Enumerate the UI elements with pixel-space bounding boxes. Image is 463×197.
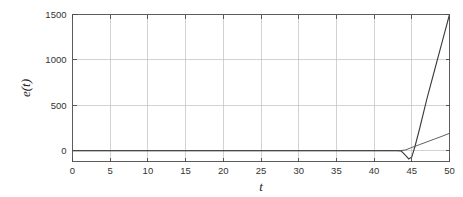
x-tick-label: 5 [108, 165, 113, 176]
y-tick-label: 0 [61, 145, 66, 156]
line-chart: 05101520253035404550 050010001500 t e(t) [0, 0, 463, 197]
y-axis-title: e(t) [18, 79, 33, 97]
y-tick-label: 500 [51, 100, 67, 111]
x-tick-label: 50 [444, 165, 455, 176]
x-tick-label: 35 [331, 165, 342, 176]
x-tick-label: 0 [70, 165, 75, 176]
y-tick-label: 1000 [45, 54, 66, 65]
x-tick-label: 20 [218, 165, 229, 176]
x-tick-label: 15 [180, 165, 191, 176]
figure-container: 05101520253035404550 050010001500 t e(t) [0, 0, 463, 197]
x-axis-title: t [259, 179, 263, 194]
x-tick-label: 10 [143, 165, 154, 176]
x-tick-label: 25 [256, 165, 267, 176]
x-tick-label: 45 [407, 165, 418, 176]
x-tick-label: 40 [369, 165, 380, 176]
x-tick-label: 30 [293, 165, 304, 176]
y-tick-label: 1500 [45, 9, 66, 20]
